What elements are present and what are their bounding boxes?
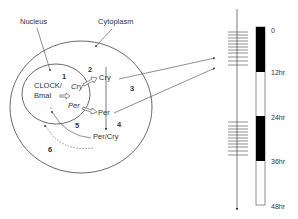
- nucleus-membrane: [22, 64, 90, 124]
- step-1: 1: [62, 72, 66, 81]
- cry-cytoplasm-label: Cry: [99, 73, 111, 82]
- step-4: 4: [117, 120, 122, 129]
- time-label-24hr: 24hr: [271, 114, 286, 121]
- step-2: 2: [88, 65, 92, 74]
- nucleus-label: Nucleus: [20, 17, 47, 26]
- cytoplasm-pointer-line: [96, 29, 112, 46]
- clock-bmal-label-line2: Bmal: [34, 91, 51, 100]
- cytoplasm-label: Cytoplasm: [98, 17, 133, 26]
- time-label-0: 0: [271, 27, 275, 34]
- cell-membrane: [10, 41, 152, 173]
- cry-nuclear-label: Cry: [71, 82, 84, 91]
- per-cytoplasm-label: Per: [98, 108, 110, 117]
- nuclear-import-dot: [51, 111, 53, 113]
- per-cry-complex-label: Per/Cry: [93, 132, 119, 141]
- nucleus-pointer-dot: [49, 69, 51, 71]
- cry-to-timeline-arrow: [119, 58, 215, 79]
- cytoplasm-pointer-dot: [95, 45, 97, 47]
- step-5: 5: [75, 121, 79, 130]
- expression-ticks-day1: [228, 32, 248, 65]
- circadian-clock-diagram: Nucleus Cytoplasm CLOCK/ Bmal 1 2 3 4 5 …: [0, 0, 298, 219]
- nucleus-small-dot: [50, 107, 51, 108]
- degradation-dot: [44, 125, 46, 127]
- dark-period-2: [256, 116, 265, 161]
- dark-period-1: [256, 27, 265, 72]
- clock-bmal-label-line1: CLOCK/: [34, 81, 63, 90]
- transcription-arrow: [60, 93, 70, 99]
- per-nuclear-label: Per: [68, 101, 80, 110]
- time-label-48hr: 48hr: [271, 203, 286, 210]
- time-label-12hr: 12hr: [271, 69, 286, 76]
- step-6: 6: [48, 145, 52, 154]
- nuclear-import-curve: [52, 112, 91, 138]
- expression-ticks-day2: [228, 122, 248, 155]
- time-label-36hr: 36hr: [271, 158, 286, 165]
- step-3: 3: [130, 84, 134, 93]
- nucleus-pointer-line: [37, 28, 50, 70]
